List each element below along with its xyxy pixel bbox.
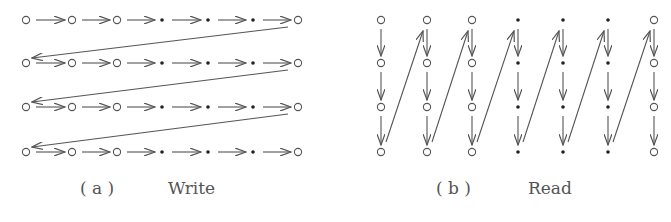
open-node-icon <box>68 59 75 66</box>
panel-b-tag: ( b ) <box>436 178 471 198</box>
open-node-icon <box>423 148 430 155</box>
wrap-arrow <box>613 31 650 142</box>
open-node-icon <box>423 59 430 66</box>
filled-node-icon <box>251 105 255 109</box>
wrap-arrow <box>32 27 288 58</box>
filled-node-icon <box>251 18 255 22</box>
open-node-icon <box>377 148 384 155</box>
open-node-icon <box>68 16 75 23</box>
open-node-icon <box>22 59 29 66</box>
open-node-icon <box>468 59 475 66</box>
filled-node-icon <box>160 61 164 65</box>
filled-node-icon <box>160 105 164 109</box>
filled-node-icon <box>206 61 210 65</box>
filled-node-icon <box>606 105 610 109</box>
wrap-arrow <box>432 31 468 142</box>
write-panel <box>22 16 301 155</box>
read-panel <box>377 16 657 155</box>
open-node-icon <box>294 148 301 155</box>
open-node-icon <box>113 103 120 110</box>
filled-node-icon <box>206 105 210 109</box>
wrap-arrow <box>477 31 514 142</box>
panel-a-caption: Write <box>168 178 215 198</box>
open-node-icon <box>113 148 120 155</box>
wrap-arrow <box>523 31 559 142</box>
filled-node-icon <box>516 150 520 154</box>
panel-b-caption: Read <box>528 178 572 198</box>
open-node-icon <box>468 16 475 23</box>
open-node-icon <box>650 16 657 23</box>
open-node-icon <box>294 59 301 66</box>
open-node-icon <box>377 16 384 23</box>
open-node-icon <box>22 16 29 23</box>
wrap-arrow <box>32 70 288 102</box>
open-node-icon <box>22 148 29 155</box>
open-node-icon <box>468 148 475 155</box>
filled-node-icon <box>516 18 520 22</box>
open-node-icon <box>68 103 75 110</box>
open-node-icon <box>377 59 384 66</box>
open-node-icon <box>294 103 301 110</box>
filled-node-icon <box>606 61 610 65</box>
open-node-icon <box>650 148 657 155</box>
filled-node-icon <box>561 105 565 109</box>
open-node-icon <box>113 16 120 23</box>
open-node-icon <box>22 103 29 110</box>
filled-node-icon <box>516 61 520 65</box>
filled-node-icon <box>606 150 610 154</box>
open-node-icon <box>113 59 120 66</box>
filled-node-icon <box>160 18 164 22</box>
panel-a-tag: ( a ) <box>80 178 114 198</box>
open-node-icon <box>423 16 430 23</box>
filled-node-icon <box>160 150 164 154</box>
filled-node-icon <box>251 61 255 65</box>
wrap-arrow <box>32 114 288 147</box>
open-node-icon <box>650 103 657 110</box>
open-node-icon <box>68 148 75 155</box>
filled-node-icon <box>206 18 210 22</box>
filled-node-icon <box>516 105 520 109</box>
filled-node-icon <box>561 18 565 22</box>
open-node-icon <box>650 59 657 66</box>
filled-node-icon <box>206 150 210 154</box>
filled-node-icon <box>561 150 565 154</box>
open-node-icon <box>377 103 384 110</box>
filled-node-icon <box>251 150 255 154</box>
filled-node-icon <box>561 61 565 65</box>
wrap-arrow <box>568 31 604 142</box>
filled-node-icon <box>606 18 610 22</box>
open-node-icon <box>423 103 430 110</box>
wrap-arrow <box>386 31 423 142</box>
open-node-icon <box>468 103 475 110</box>
open-node-icon <box>294 16 301 23</box>
